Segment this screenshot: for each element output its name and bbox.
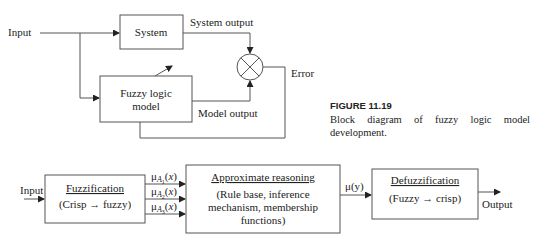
- svg-text:μA3(x): μA3(x): [151, 200, 177, 215]
- model-output-label: Model output: [198, 107, 258, 119]
- model-label-line2: model: [132, 100, 160, 112]
- figure-caption-text: Block diagram of fuzzy logic model devel…: [330, 113, 530, 139]
- reasoning-line1: (Rule base, inference: [216, 188, 309, 201]
- svg-text:μA1(x): μA1(x): [151, 170, 177, 185]
- model-output-line: [192, 81, 250, 101]
- system-label: System: [135, 26, 168, 38]
- reasoning-line2: mechanism, membership: [208, 201, 318, 213]
- system-output-line: [183, 33, 250, 53]
- comparator-icon: [237, 54, 263, 80]
- mu-y-label: μ(y): [345, 180, 364, 193]
- reasoning-line3: functions): [241, 214, 286, 227]
- defuzzification-sub: (Fuzzy → crisp): [389, 192, 461, 205]
- fuzzification-title: Fuzzification: [66, 182, 125, 194]
- svg-text:μA2(x): μA2(x): [151, 185, 177, 200]
- system-output-label: System output: [190, 16, 253, 28]
- input-branch-line: [80, 33, 99, 98]
- model-label-line1: Fuzzy logic: [120, 87, 172, 99]
- membership-label-2: μA2(x): [151, 185, 177, 200]
- membership-label-3: μA3(x): [151, 200, 177, 215]
- input-label: Input: [8, 26, 31, 38]
- fuzzy-logic-model-box: [100, 76, 192, 122]
- membership-label-1: μA1(x): [151, 170, 177, 185]
- fz-input-label: Input: [20, 184, 43, 196]
- figure-caption-title: FIGURE 11.19: [330, 100, 392, 111]
- reasoning-title: Approximate reasoning: [211, 171, 315, 183]
- fuzzification-sub: (Crisp → fuzzy): [59, 198, 131, 211]
- error-feedback-line: [140, 67, 285, 138]
- error-label: Error: [291, 67, 315, 79]
- output-label: Output: [482, 198, 513, 210]
- defuzzification-title: Defuzzification: [391, 174, 460, 186]
- adjust-arrow: [155, 66, 172, 76]
